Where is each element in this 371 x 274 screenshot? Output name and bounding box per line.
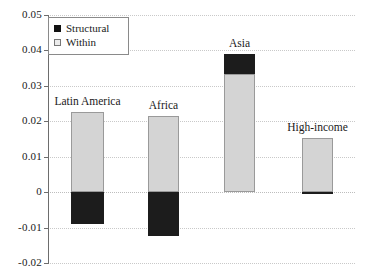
- filled-square-icon: [54, 25, 61, 32]
- y-tick-mark: [44, 157, 49, 158]
- bar-segment-within[interactable]: [302, 138, 333, 192]
- legend-item-structural: Structural: [54, 22, 123, 35]
- bar-group[interactable]: [224, 15, 255, 263]
- bar-segment-structural[interactable]: [71, 192, 104, 224]
- y-tick-label: 0.03: [22, 80, 42, 91]
- legend-label-within: Within: [66, 37, 96, 48]
- bar-group[interactable]: [302, 15, 333, 263]
- bar-segment-structural[interactable]: [148, 192, 179, 236]
- y-tick-label: -0.02: [18, 257, 42, 268]
- y-tick-label: -0.01: [18, 222, 42, 233]
- y-tick-mark: [44, 15, 49, 16]
- y-tick-mark: [44, 192, 49, 193]
- y-tick-label: 0.04: [22, 44, 42, 55]
- bar-group[interactable]: [148, 15, 179, 263]
- bar-segment-within[interactable]: [148, 116, 179, 192]
- bar-segment-structural[interactable]: [302, 192, 333, 194]
- legend-label-structural: Structural: [66, 23, 109, 34]
- open-square-icon: [54, 39, 61, 46]
- y-tick-label: 0.02: [22, 115, 42, 126]
- bar-category-label: High-income: [258, 121, 371, 133]
- y-tick-mark: [44, 263, 49, 264]
- y-tick-mark: [44, 86, 49, 87]
- y-tick-label: 0: [36, 186, 42, 197]
- bar-category-label: Africa: [104, 99, 224, 111]
- y-tick-mark: [44, 228, 49, 229]
- bar-segment-within[interactable]: [71, 112, 104, 192]
- y-tick-label: 0.01: [22, 151, 42, 162]
- bar-segment-structural[interactable]: [224, 54, 255, 74]
- bar-segment-within[interactable]: [224, 74, 255, 192]
- bar-category-label: Asia: [180, 37, 300, 49]
- y-tick-mark: [44, 121, 49, 122]
- chart-figure: 0.050.040.030.020.010-0.01-0.02 Latin Am…: [0, 0, 371, 274]
- y-tick-label: 0.05: [22, 9, 42, 20]
- legend-item-within: Within: [54, 36, 123, 49]
- chart-legend: Structural Within: [48, 17, 129, 55]
- gridline: [48, 263, 355, 264]
